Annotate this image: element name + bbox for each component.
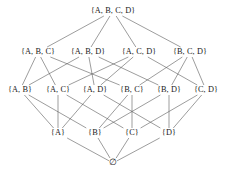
edge-cd-d (173, 95, 201, 128)
node-c[interactable]: {C} (122, 128, 142, 138)
edge-abcd-abc (47, 16, 104, 47)
edge-ac-c (67, 95, 124, 128)
node-label-abd: {A, B, D} (71, 47, 106, 56)
edge-c-empty (116, 138, 129, 158)
edge-abd-ad (89, 57, 94, 85)
edge-acd-cd (148, 57, 197, 85)
node-empty[interactable]: ∅ (109, 157, 117, 168)
node-label-ac: {A, C} (46, 85, 70, 94)
node-label-ab: {A, B} (8, 85, 32, 94)
edge-abcd-bcd (122, 16, 180, 47)
edge-abd-ab (29, 57, 79, 85)
edge-a-empty (67, 138, 109, 161)
edge-ab-b (29, 95, 87, 128)
node-label-bc: {B, C} (120, 85, 144, 94)
edge-abc-ac (41, 57, 56, 85)
node-bc[interactable]: {B, C} (116, 85, 148, 95)
node-d[interactable]: {D} (159, 128, 179, 138)
node-label-ad: {A, D} (83, 85, 108, 94)
node-abcd[interactable]: {A, B, C, D} (85, 6, 140, 16)
node-b[interactable]: {B} (85, 128, 105, 138)
node-label-d: {D} (162, 128, 176, 137)
edge-acd-ac (69, 57, 129, 85)
node-label-c: {C} (125, 128, 139, 137)
node-cd[interactable]: {C, D} (190, 85, 222, 95)
edge-d-empty (117, 138, 160, 161)
node-label-abc: {A, B, C} (21, 47, 55, 56)
edge-bcd-bc (140, 57, 183, 85)
edge-abcd-abd (91, 16, 110, 47)
node-label-b: {B} (88, 128, 102, 137)
node-label-acd: {A, C, D} (122, 47, 157, 56)
edge-abc-ab (22, 57, 35, 85)
node-bd[interactable]: {B, D} (153, 85, 185, 95)
node-abd[interactable]: {A, B, D} (66, 47, 110, 57)
node-abc[interactable]: {A, B, C} (16, 47, 60, 57)
edge-ad-a (62, 95, 90, 128)
node-ad[interactable]: {A, D} (79, 85, 111, 95)
node-layer: {A, B, C, D}{A, B, C}{A, B, D}{A, C, D}{… (4, 6, 222, 168)
edge-bcd-cd (192, 57, 204, 85)
node-acd[interactable]: {A, C, D} (117, 47, 161, 57)
node-label-bcd: {B, C, D} (173, 47, 207, 56)
node-label-bd: {B, D} (157, 85, 181, 94)
edge-b-empty (98, 138, 110, 158)
node-ac[interactable]: {A, C} (42, 85, 74, 95)
hasse-diagram-canvas: {A, B, C, D}{A, B, C}{A, B, D}{A, C, D}{… (0, 0, 226, 172)
edge-ab-a (24, 95, 53, 128)
node-label-empty: ∅ (109, 157, 117, 167)
edge-bcd-bd (172, 57, 187, 85)
node-bcd[interactable]: {B, C, D} (168, 47, 212, 57)
edge-abcd-acd (116, 16, 136, 47)
node-label-a: {A} (51, 128, 65, 137)
node-a[interactable]: {A} (48, 128, 68, 138)
node-ab[interactable]: {A, B} (4, 85, 36, 95)
node-label-abcd: {A, B, C, D} (91, 6, 136, 15)
edge-bc-b (99, 95, 127, 128)
node-label-cd: {C, D} (194, 85, 218, 94)
edge-abc-bc (50, 57, 119, 85)
hasse-diagram-figure: {A, B, C, D}{A, B, C}{A, B, D}{A, C, D}{… (0, 0, 226, 172)
